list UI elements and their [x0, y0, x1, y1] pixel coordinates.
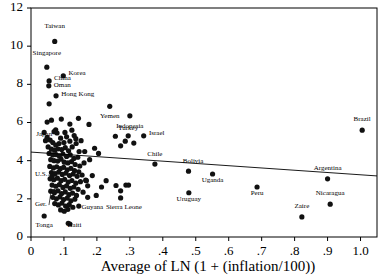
data-point — [85, 183, 90, 188]
data-point-labeled — [52, 39, 57, 44]
point-label: Uganda — [202, 176, 225, 184]
point-label: Turkey — [118, 124, 138, 132]
data-point-labeled — [118, 195, 123, 200]
data-point — [76, 116, 81, 121]
data-point — [94, 193, 99, 198]
data-point-labeled — [49, 174, 54, 179]
data-point — [76, 187, 81, 192]
x-tick-label: .6 — [224, 243, 234, 258]
data-point — [64, 134, 69, 139]
data-point — [67, 139, 72, 144]
data-point — [69, 128, 74, 133]
data-point-labeled — [360, 128, 365, 133]
data-point — [84, 178, 89, 183]
y-tick-label: 10 — [10, 37, 23, 52]
data-point-labeled — [44, 65, 49, 70]
data-point — [65, 207, 70, 212]
x-tick-label: .9 — [323, 243, 333, 258]
y-tick-label: 12 — [10, 0, 23, 14]
x-tick-label: .3 — [125, 243, 135, 258]
data-point — [75, 174, 80, 179]
data-point-labeled — [47, 78, 52, 83]
data-point-labeled — [53, 93, 58, 98]
point-label: Israel — [149, 129, 165, 137]
data-point — [61, 140, 66, 145]
data-point-labeled — [127, 113, 132, 118]
x-tick-label: 0 — [28, 243, 35, 258]
y-tick-label: 4 — [17, 152, 24, 167]
x-tick-label: .7 — [257, 243, 267, 258]
data-point — [92, 146, 97, 151]
data-point-labeled — [152, 162, 157, 167]
point-labels: TaiwanSingaporeKoreaChinaOmanHong KongYe… — [33, 22, 371, 229]
point-label: Zaire — [294, 202, 309, 210]
data-point — [70, 144, 75, 149]
point-label: Brazil — [354, 115, 371, 123]
data-point — [58, 136, 63, 141]
point-label: Nicaragua — [316, 189, 346, 197]
point-label: Korea — [69, 69, 87, 77]
data-point — [87, 157, 92, 162]
data-point — [80, 190, 85, 195]
data-point-labeled — [42, 213, 47, 218]
data-point — [82, 149, 87, 154]
point-label: Ger. — [35, 200, 47, 208]
x-tick-label: .1 — [59, 243, 69, 258]
x-axis-ticks: 0.1.2.3.4.5.6.7.8.91.0 — [28, 237, 369, 258]
data-point — [73, 136, 78, 141]
point-label: Hong Kong — [61, 90, 94, 98]
data-point — [73, 162, 78, 167]
data-point — [86, 122, 91, 127]
data-points — [42, 39, 365, 227]
point-label: U.S. — [35, 170, 48, 178]
data-point — [72, 197, 77, 202]
x-axis-title: Average of LN (1 + (inflation/100)) — [101, 258, 315, 275]
point-label: Yemen — [100, 112, 120, 120]
data-point — [113, 134, 118, 139]
data-point — [123, 139, 128, 144]
x-tick-label: 1.0 — [352, 243, 368, 258]
data-point — [113, 183, 118, 188]
y-tick-label: 8 — [17, 75, 24, 90]
data-point — [131, 141, 136, 146]
data-point-labeled — [328, 202, 333, 207]
point-label: Haiti — [67, 221, 81, 229]
data-point-labeled — [299, 214, 304, 219]
data-point — [104, 178, 109, 183]
point-label: Uruguay — [177, 195, 202, 203]
data-point — [79, 172, 84, 177]
x-tick-label: .8 — [290, 243, 300, 258]
data-point-labeled — [107, 104, 112, 109]
point-label: Bolivia — [183, 157, 205, 165]
data-point-labeled — [141, 133, 146, 138]
x-tick-label: .4 — [158, 243, 168, 258]
data-point — [118, 143, 123, 148]
data-point — [81, 160, 86, 165]
point-label: Taiwan — [44, 22, 65, 30]
point-label: Argentina — [314, 164, 343, 172]
point-label: Oman — [54, 81, 72, 89]
data-point — [90, 173, 95, 178]
data-point — [59, 116, 64, 121]
data-point-labeled — [325, 176, 330, 181]
data-point — [77, 163, 82, 168]
point-label: Singapore — [33, 49, 61, 57]
data-point-labeled — [46, 83, 51, 88]
data-point-labeled — [126, 133, 131, 138]
data-point — [99, 184, 104, 189]
data-point — [126, 182, 131, 187]
y-tick-label: 6 — [17, 113, 24, 128]
y-axis-ticks: 024681012 — [10, 0, 31, 243]
point-label: Guyana — [81, 203, 104, 211]
data-point — [118, 188, 123, 193]
data-point — [96, 151, 101, 156]
chart-canvas: 024681012 0.1.2.3.4.5.6.7.8.91.0 TaiwanS… — [0, 0, 385, 280]
point-label: Peru — [251, 189, 264, 197]
data-point — [78, 179, 83, 184]
data-point-labeled — [51, 189, 56, 194]
x-tick-label: .2 — [92, 243, 102, 258]
data-point — [74, 141, 79, 146]
y-tick-label: 0 — [17, 228, 24, 243]
data-point — [78, 138, 83, 143]
y-tick-label: 2 — [17, 190, 24, 205]
